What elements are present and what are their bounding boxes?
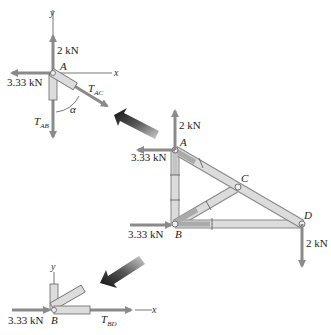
y-axis-label: y bbox=[50, 261, 56, 272]
y-axis-label: y bbox=[49, 7, 55, 18]
pin-a bbox=[51, 71, 56, 76]
joint-a-fbd: y x 2 kN 3.33 kN TAB TAC A α bbox=[7, 7, 119, 137]
truss-diagram: y x 2 kN 3.33 kN TAB TAC A α bbox=[0, 0, 331, 335]
pointer-arrow-to-a bbox=[114, 108, 159, 139]
force-label-a-left: 3.33 kN bbox=[131, 151, 167, 163]
force-label-a-up: 2 kN bbox=[179, 119, 201, 131]
x-axis-label: x bbox=[113, 67, 119, 78]
angle-label: α bbox=[70, 103, 76, 115]
force-label-up: 2 kN bbox=[57, 44, 79, 56]
member-stub-bd bbox=[54, 306, 90, 314]
tension-label-bd: TBD bbox=[101, 313, 116, 328]
joint-b-fbd: y x 3.33 kN TBD B bbox=[8, 261, 157, 328]
joint-label-c: C bbox=[241, 172, 249, 184]
pointer-arrow-to-b bbox=[100, 256, 145, 288]
pin-b bbox=[52, 308, 57, 313]
force-label-left: 3.33 kN bbox=[7, 76, 43, 88]
force-label-b-right: 3.33 kN bbox=[128, 228, 164, 240]
x-axis-label: x bbox=[151, 304, 157, 315]
joint-label-a: A bbox=[179, 136, 187, 148]
joint-label-d: D bbox=[303, 209, 312, 221]
pin-c bbox=[235, 184, 241, 190]
force-label-right: 3.33 kN bbox=[8, 314, 44, 326]
force-label-d-down: 2 kN bbox=[306, 237, 328, 249]
joint-label-b: B bbox=[51, 314, 58, 326]
joint-label-b: B bbox=[175, 228, 182, 240]
truss: A B C D 2 kN 3.33 kN 3.33 kN 2 kN bbox=[128, 111, 328, 266]
tension-label-ab: TAB bbox=[34, 115, 49, 130]
joint-label-a: A bbox=[59, 60, 67, 72]
pin-b bbox=[172, 221, 178, 227]
